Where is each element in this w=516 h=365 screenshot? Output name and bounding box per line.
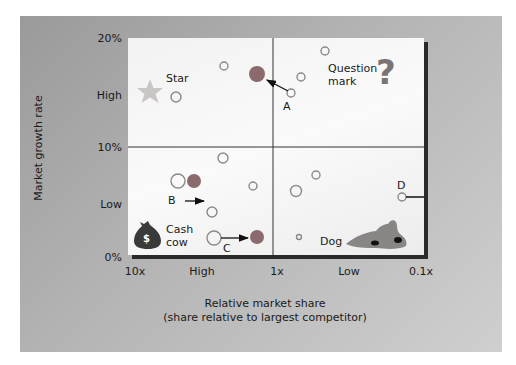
plot-area: Star Question mark ? Cash cow $ Dog A B … bbox=[128, 38, 424, 255]
y-tick-20: 20% bbox=[82, 32, 122, 45]
data-point bbox=[321, 47, 329, 55]
question-mark-label-line2: mark bbox=[328, 76, 356, 88]
data-point-b bbox=[171, 174, 185, 188]
data-point bbox=[220, 62, 228, 70]
movement-arrows bbox=[185, 80, 424, 238]
future-point-b bbox=[187, 174, 201, 188]
data-point-c bbox=[207, 231, 221, 245]
data-point-d bbox=[398, 193, 406, 201]
star-icon bbox=[137, 79, 163, 103]
future-positions bbox=[187, 66, 265, 244]
point-label-b: B bbox=[168, 195, 176, 207]
x-axis-label: Relative market share bbox=[100, 297, 430, 311]
star-label: Star bbox=[166, 73, 189, 85]
x-tick-01x: 0.1x bbox=[396, 265, 446, 278]
current-positions bbox=[171, 47, 406, 245]
data-point bbox=[312, 171, 320, 179]
y-tick-10: 10% bbox=[82, 141, 122, 154]
x-tick-high: High bbox=[177, 265, 227, 278]
x-tick-10x: 10x bbox=[110, 265, 160, 278]
cash-cow-label-line2: cow bbox=[166, 237, 188, 249]
dollar-sign-icon: $ bbox=[143, 233, 150, 245]
dog-label: Dog bbox=[320, 236, 342, 248]
data-point bbox=[291, 186, 302, 197]
cash-cow-label-line1: Cash bbox=[166, 224, 193, 236]
dog-icon bbox=[346, 220, 407, 249]
question-mark-label-line1: Question bbox=[328, 63, 377, 75]
point-label-a: A bbox=[283, 101, 291, 113]
data-point bbox=[297, 73, 305, 81]
data-point bbox=[207, 207, 217, 217]
question-mark-icon: ? bbox=[376, 54, 396, 90]
y-tick-high: High bbox=[82, 89, 122, 102]
data-point bbox=[218, 153, 228, 163]
data-point bbox=[171, 92, 181, 102]
data-point bbox=[249, 182, 257, 190]
point-label-d: D bbox=[397, 180, 405, 192]
y-tick-0: 0% bbox=[82, 251, 122, 264]
data-point bbox=[297, 235, 302, 240]
x-tick-low: Low bbox=[324, 265, 374, 278]
data-point-a bbox=[287, 89, 295, 97]
x-tick-1x: 1x bbox=[252, 265, 302, 278]
arrow-a bbox=[267, 80, 288, 91]
y-tick-low: Low bbox=[82, 198, 122, 211]
y-axis-label: Market growth rate bbox=[32, 95, 45, 200]
x-axis-sublabel: (share relative to largest competitor) bbox=[100, 311, 430, 325]
future-point-c bbox=[250, 230, 264, 244]
future-point-a bbox=[249, 66, 265, 82]
point-label-c: C bbox=[223, 243, 231, 255]
